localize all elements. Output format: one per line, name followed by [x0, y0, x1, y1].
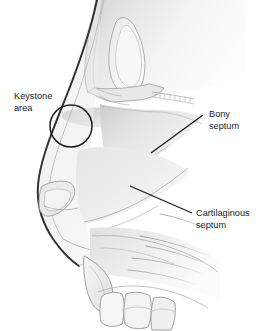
anatomy-figure: Keystone area Bony septum Cartilaginous …: [0, 0, 273, 331]
incisor-teeth-structure: [100, 292, 175, 330]
keystone-area-label-line1: Keystone: [14, 91, 52, 101]
cartilaginous-septum-label-line2: septum: [196, 220, 226, 230]
forehead-glabella-structure: [85, 0, 246, 97]
bony-septum-label-line2: septum: [209, 121, 239, 131]
cartilaginous-septum-label-line1: Cartilaginous: [196, 208, 250, 218]
keystone-area-label-line2: area: [14, 103, 33, 113]
bony-septum-label-line1: Bony: [209, 109, 230, 119]
